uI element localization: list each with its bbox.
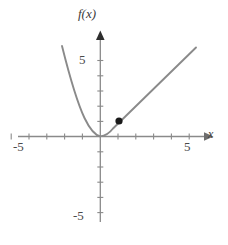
marked-point-dot <box>115 117 122 124</box>
y-axis-label: f(x) <box>78 6 96 22</box>
x-axis-tick-label-neg5: -5 <box>13 139 24 155</box>
function-graph-figure: f(x) x -5 5 5 -5 <box>0 0 228 245</box>
curve-right-branch <box>100 48 196 137</box>
x-axis-tick-label-pos5: 5 <box>184 139 191 155</box>
y-axis <box>96 31 105 223</box>
y-axis-arrow-icon <box>96 31 105 41</box>
y-axis-tick-label-pos5: 5 <box>79 52 86 68</box>
y-axis-tick-label-neg5: -5 <box>73 208 84 224</box>
x-axis-label: x <box>208 127 213 142</box>
graph-canvas <box>0 0 228 245</box>
